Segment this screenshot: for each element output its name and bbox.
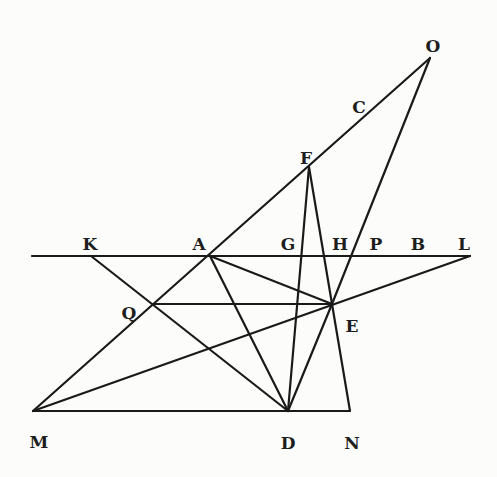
point-label-a: A	[191, 234, 206, 254]
line-F-E	[309, 167, 332, 304]
point-label-d: D	[281, 433, 296, 453]
line-M-L	[33, 256, 470, 411]
line-E-D	[288, 304, 332, 411]
point-label-e: E	[346, 316, 359, 336]
point-label-q: Q	[122, 303, 137, 323]
diagram-canvas: OCFKAGHPBLQEMDN	[0, 0, 497, 477]
point-label-n: N	[344, 433, 360, 453]
point-label-g: G	[281, 234, 296, 254]
line-O-E	[332, 58, 430, 304]
line-A-D	[210, 256, 288, 411]
line-A-E	[210, 256, 332, 304]
labels-group: OCFKAGHPBLQEMDN	[30, 36, 470, 453]
point-label-p: P	[370, 234, 383, 254]
point-label-l: L	[458, 234, 470, 254]
point-label-k: K	[83, 234, 99, 254]
point-label-h: H	[332, 234, 348, 254]
point-label-m: M	[30, 432, 49, 452]
point-label-f: F	[300, 148, 312, 168]
point-label-o: O	[426, 36, 441, 56]
geometry-figure: OCFKAGHPBLQEMDN	[0, 0, 497, 477]
point-label-b: B	[411, 234, 425, 254]
segments-group	[32, 58, 470, 411]
point-label-c: C	[352, 97, 366, 117]
